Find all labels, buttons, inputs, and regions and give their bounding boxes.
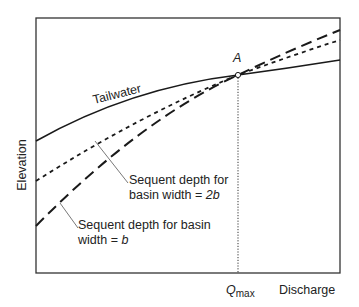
sequent-b-label-prefix: width = xyxy=(77,233,121,247)
sequent-2b-label-line1: Sequent depth for xyxy=(129,173,228,187)
tailwater-curve xyxy=(36,60,340,141)
qmax-label: Qmax xyxy=(226,283,255,299)
sequent-2b-label-line2: basin width = 2b xyxy=(129,188,220,202)
y-axis-label: Elevation xyxy=(15,139,29,190)
sequent-2b-label-prefix: basin width = xyxy=(129,188,206,202)
diagram-canvas: A Tailwater Sequent depth for basin widt… xyxy=(0,0,359,307)
qmax-label-sub: max xyxy=(236,288,255,299)
leader-line-2b xyxy=(95,141,128,183)
qmax-label-main: Q xyxy=(226,283,236,297)
sequent-b-label-line1: Sequent depth for basin xyxy=(78,218,211,232)
sequent-b-label-var: b xyxy=(121,233,128,247)
x-axis-label: Discharge xyxy=(279,283,335,297)
point-a-marker xyxy=(235,72,240,77)
leader-line-b xyxy=(60,203,78,228)
sequent-b-label-line2: width = b xyxy=(77,233,128,247)
sequent-2b-label-var: 2b xyxy=(205,188,220,202)
point-a-label: A xyxy=(232,51,241,65)
sequent-depth-2b-curve xyxy=(36,40,340,181)
